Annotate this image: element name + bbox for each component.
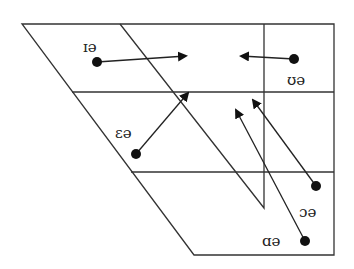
label-ea: ɛə xyxy=(115,124,132,142)
vowel-quadrilateral-diagram: ɪə ʊə ɛə ɔə ɑə xyxy=(0,0,354,269)
label-oa: ɔə xyxy=(299,203,316,221)
arrow-ia xyxy=(97,56,186,62)
point-ia xyxy=(92,57,102,67)
label-ia: ɪə xyxy=(83,38,97,56)
point-aa xyxy=(300,236,310,246)
point-ua xyxy=(289,54,299,64)
point-ea xyxy=(131,149,141,159)
arrow-ea xyxy=(136,93,188,154)
label-aa: ɑə xyxy=(262,232,281,250)
arrow-aa xyxy=(236,110,305,241)
diphthong-arrows xyxy=(97,56,316,241)
point-oa xyxy=(311,181,321,191)
label-ua: ʊə xyxy=(287,71,305,89)
arrow-ua xyxy=(241,56,294,59)
arrow-oa xyxy=(253,100,316,186)
